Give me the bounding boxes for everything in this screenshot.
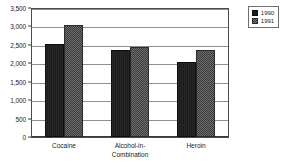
- bar-group: [45, 8, 83, 137]
- legend: 19901991: [248, 6, 279, 28]
- y-axis-tick-label: 500: [15, 115, 26, 122]
- bar-1990-heroin: [177, 62, 196, 137]
- bar-chart: 3,5003,0002,5002,0001,5001,0005000 Cocai…: [0, 0, 283, 167]
- y-axis-tick-label: 1,500: [10, 78, 26, 85]
- x-axis-category-labels: CocaineAlcohol-in- CombinationHeroin: [31, 142, 229, 167]
- legend-label: 1991: [261, 18, 274, 24]
- bar-1991-alcohol-in-combination: [130, 47, 149, 137]
- y-axis-tick-label: 3,000: [10, 23, 26, 30]
- y-axis-tick-label: 1,000: [10, 97, 26, 104]
- legend-item-1991: 1991: [252, 17, 274, 25]
- x-axis-label-heroin: Heroin: [163, 142, 229, 151]
- bar-1991-heroin: [196, 50, 215, 137]
- y-axis-tick-label: 0: [22, 134, 26, 141]
- y-axis-tick-label: 3,500: [10, 5, 26, 12]
- y-axis-tick-label: 2,000: [10, 60, 26, 67]
- bar-1990-alcohol-in-combination: [111, 50, 130, 137]
- x-axis-label-cocaine: Cocaine: [31, 142, 97, 151]
- y-axis: 3,5003,0002,5002,0001,5001,0005000: [0, 0, 31, 140]
- x-axis-label-alcohol-in-combination: Alcohol-in- Combination: [97, 142, 163, 159]
- legend-label: 1990: [261, 10, 274, 16]
- bar-1991-cocaine: [64, 25, 83, 137]
- legend-swatch-1991-icon: [252, 18, 258, 24]
- bar-group: [111, 8, 149, 137]
- legend-swatch-1990-icon: [252, 10, 258, 16]
- bars-layer: [31, 8, 229, 138]
- bar-1990-cocaine: [45, 44, 64, 137]
- y-axis-tick-label: 2,500: [10, 41, 26, 48]
- legend-item-1990: 1990: [252, 9, 274, 17]
- bar-group: [177, 8, 215, 137]
